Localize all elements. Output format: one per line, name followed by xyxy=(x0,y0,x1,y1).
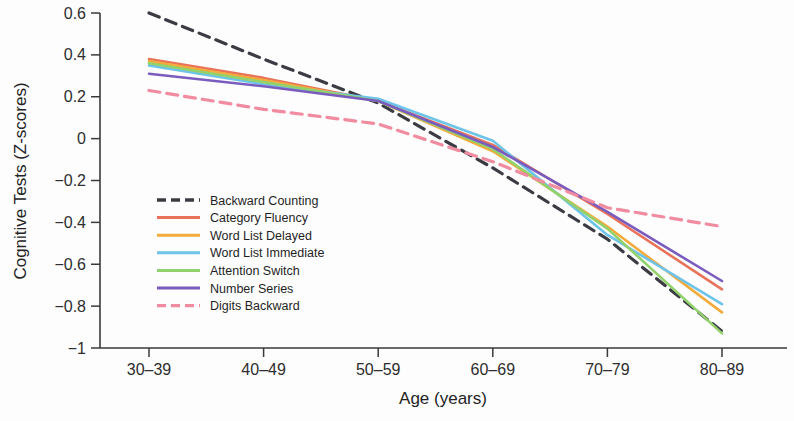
legend-label-attention-switch: Attention Switch xyxy=(210,264,300,278)
y-tick-label: 0.2 xyxy=(64,88,86,105)
y-tick-label: −0.4 xyxy=(54,214,86,231)
legend-label-category-fluency: Category Fluency xyxy=(210,211,309,225)
x-axis-title: Age (years) xyxy=(399,389,487,408)
legend-label-number-series: Number Series xyxy=(210,282,293,296)
legend-label-digits-backward: Digits Backward xyxy=(210,299,300,313)
x-axis-tick-labels: 30–3940–4950–5960–6970–7980–89 xyxy=(127,361,745,378)
line-chart-figure: 0.60.40.20−0.2−0.4−0.6−0.8−1 30–3940–495… xyxy=(0,0,794,421)
x-tick-label: 30–39 xyxy=(127,361,172,378)
y-axis-ticks xyxy=(91,13,100,348)
x-tick-label: 70–79 xyxy=(585,361,630,378)
y-tick-label: 0.6 xyxy=(64,5,86,22)
chart-canvas: 0.60.40.20−0.2−0.4−0.6−0.8−1 30–3940–495… xyxy=(0,0,794,421)
y-tick-label: 0.4 xyxy=(64,46,86,63)
x-axis-ticks xyxy=(149,348,722,357)
x-tick-label: 60–69 xyxy=(471,361,516,378)
y-tick-label: −0.6 xyxy=(54,256,86,273)
legend-label-backward-counting: Backward Counting xyxy=(210,194,318,208)
y-axis-tick-labels: 0.60.40.20−0.2−0.4−0.6−0.8−1 xyxy=(54,5,86,357)
legend-label-word-list-delayed: Word List Delayed xyxy=(210,229,312,243)
legend-label-word-list-immediate: Word List Immediate xyxy=(210,246,324,260)
y-tick-label: −0.8 xyxy=(54,298,86,315)
x-tick-label: 80–89 xyxy=(700,361,745,378)
y-tick-label: 0 xyxy=(77,130,86,147)
x-tick-label: 50–59 xyxy=(356,361,401,378)
x-tick-label: 40–49 xyxy=(241,361,286,378)
chart-legend: Backward CountingCategory FluencyWord Li… xyxy=(157,194,324,314)
y-tick-label: −1 xyxy=(68,340,86,357)
y-axis-title: Cognitive Tests (Z-scores) xyxy=(11,82,30,279)
y-tick-label: −0.2 xyxy=(54,172,86,189)
